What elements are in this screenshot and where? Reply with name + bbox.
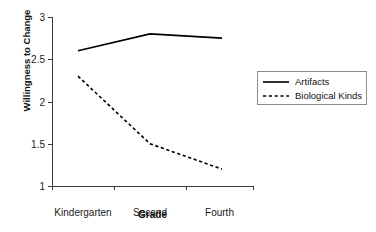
legend-swatch-dashed-icon: [263, 91, 289, 101]
legend-swatch-solid-icon: [263, 77, 289, 87]
x-tick-mark: [114, 186, 115, 190]
series-line-biological-kinds: [78, 76, 222, 169]
legend-label-biological-kinds: Biological Kinds: [295, 91, 362, 101]
y-tick-label: 2.5: [31, 54, 45, 65]
legend-label-artifacts: Artifacts: [295, 77, 329, 87]
y-tick-label: 3: [39, 12, 45, 23]
x-tick-label: Fourth: [205, 207, 234, 218]
x-tick-label: Second: [133, 207, 167, 218]
y-tick-label: 1: [39, 181, 45, 192]
y-axis-title: Willingness to Change: [21, 0, 32, 141]
x-tick-mark: [186, 186, 187, 190]
x-axis-line: [52, 186, 253, 187]
x-tick-mark: [52, 186, 53, 190]
series-lines: [52, 17, 253, 186]
chart-figure: Willingness to Change Grade 11.522.53 Ki…: [0, 0, 376, 232]
x-tick-label: Kindergarten: [54, 207, 111, 218]
x-tick-mark: [253, 186, 254, 190]
y-tick-label: 2: [39, 96, 45, 107]
legend-item-biological-kinds: Biological Kinds: [263, 89, 361, 103]
legend-item-artifacts: Artifacts: [263, 75, 361, 89]
plot-area: 11.522.53 KindergartenSecondFourth: [52, 17, 253, 186]
y-tick-label: 1.5: [31, 138, 45, 149]
legend-box: Artifacts Biological Kinds: [257, 71, 367, 105]
series-line-artifacts: [78, 34, 222, 51]
